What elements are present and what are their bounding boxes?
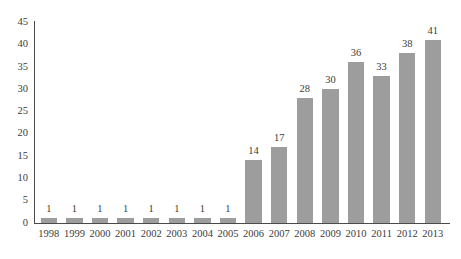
y-axis-tick-label: 0 (23, 218, 28, 228)
y-axis-tick-label: 20 (18, 128, 29, 138)
y-axis-tick-label: 30 (18, 84, 29, 94)
x-axis-tick-label: 2003 (164, 228, 190, 240)
bar (322, 89, 338, 223)
bar-value-label: 1 (215, 204, 241, 214)
x-axis-tick-label: 1999 (62, 228, 88, 240)
bar-value-label: 30 (318, 75, 344, 85)
y-axis-tick-label: 45 (18, 17, 29, 27)
bar (194, 218, 210, 222)
bar-value-label: 1 (190, 204, 216, 214)
bar-group: 38 (394, 22, 420, 223)
bar-value-label: 14 (241, 146, 267, 156)
bar-group: 1 (215, 22, 241, 223)
x-axis-tick-label: 2010 (343, 228, 369, 240)
x-axis-tick-label: 2000 (87, 228, 113, 240)
bar-value-label: 38 (394, 39, 420, 49)
x-axis-tick-label: 2013 (420, 228, 446, 240)
bar (399, 53, 415, 222)
bar-value-label: 1 (87, 204, 113, 214)
x-axis-tick-labels: 1998199920002001200220032004200520062007… (36, 228, 450, 246)
x-axis-tick-label: 2007 (266, 228, 292, 240)
y-axis-tick-label: 15 (18, 151, 29, 161)
x-axis-tick-label: 2005 (215, 228, 241, 240)
bar-group: 1 (113, 22, 139, 223)
bar-group: 30 (318, 22, 344, 223)
bar (66, 218, 82, 222)
bar-group: 1 (190, 22, 216, 223)
bar-group: 1 (36, 22, 62, 223)
bar-group: 1 (62, 22, 88, 223)
x-axis-tick-label: 2011 (369, 228, 395, 240)
bar (220, 218, 236, 222)
bar-group: 1 (138, 22, 164, 223)
bar-value-label: 28 (292, 84, 318, 94)
plot-area: 111111111417283036333841 (36, 22, 450, 223)
bar (143, 218, 159, 222)
x-axis-tick-label: 2006 (241, 228, 267, 240)
bar-group: 36 (343, 22, 369, 223)
bar (373, 76, 389, 223)
bar-value-label: 1 (62, 204, 88, 214)
bar (297, 98, 313, 223)
bar (92, 218, 108, 222)
y-axis-tick-label: 40 (18, 39, 29, 49)
bar (425, 40, 441, 223)
bar (117, 218, 133, 222)
bar-value-label: 36 (343, 48, 369, 58)
x-axis-tick-label: 2004 (190, 228, 216, 240)
bar-group: 28 (292, 22, 318, 223)
x-axis-tick-label: 2009 (318, 228, 344, 240)
bar (271, 147, 287, 223)
y-axis-tick-label: 25 (18, 106, 29, 116)
bar-group: 1 (87, 22, 113, 223)
x-axis-tick-label: 2012 (394, 228, 420, 240)
bar-value-label: 1 (138, 204, 164, 214)
bar-value-label: 1 (36, 204, 62, 214)
bar (245, 160, 261, 222)
bar-value-label: 33 (369, 62, 395, 72)
y-axis-tick-label: 5 (23, 195, 28, 205)
y-axis-tick-label: 35 (18, 62, 29, 72)
x-axis-tick-label: 2008 (292, 228, 318, 240)
bar-value-label: 17 (266, 133, 292, 143)
y-axis-tick-label: 10 (18, 173, 29, 183)
x-axis-line (34, 223, 450, 224)
x-axis-tick-label: 2002 (138, 228, 164, 240)
bar-value-label: 1 (164, 204, 190, 214)
bar-chart: 051015202530354045 111111111417283036333… (0, 0, 461, 259)
x-axis-tick-label: 2001 (113, 228, 139, 240)
bar-group: 1 (164, 22, 190, 223)
bar-group: 14 (241, 22, 267, 223)
bar-group: 41 (420, 22, 446, 223)
y-axis-tick-labels: 051015202530354045 (0, 0, 34, 259)
bar (348, 62, 364, 222)
bar-group: 17 (266, 22, 292, 223)
bar-group: 33 (369, 22, 395, 223)
bar-value-label: 1 (113, 204, 139, 214)
bar-value-label: 41 (420, 26, 446, 36)
bar (169, 218, 185, 222)
bar (41, 218, 57, 222)
x-axis-tick-label: 1998 (36, 228, 62, 240)
